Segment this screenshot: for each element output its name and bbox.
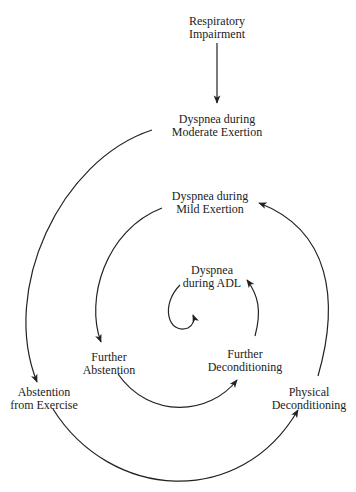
node-dyspnea-mild-exertion: Dyspnea during Mild Exertion (172, 190, 248, 216)
arrow-further-deconditioning-to-adl (247, 280, 258, 336)
node-text: Mild Exertion (172, 203, 248, 216)
node-abstention-from-exercise: Abstention from Exercise (10, 386, 78, 412)
arrow-further-abstention-to-further-deconditioning (118, 374, 237, 407)
arrow-adl-curl (168, 285, 193, 329)
node-dyspnea-adl: Dyspnea during ADL (183, 264, 241, 290)
node-further-abstention: Further Abstention (83, 351, 136, 377)
arrow-abstention-to-physical (53, 409, 298, 481)
node-respiratory-impairment: Respiratory Impairment (189, 15, 245, 41)
dyspnea-spiral-diagram: Respiratory Impairment Dyspnea during Mo… (0, 0, 356, 492)
node-text: from Exercise (10, 399, 78, 412)
node-dyspnea-moderate-exertion: Dyspnea during Moderate Exertion (172, 113, 262, 139)
node-text: Abstention (83, 364, 136, 377)
arrow-moderate-to-abstention (26, 130, 152, 382)
node-text: during ADL (183, 277, 241, 290)
node-text: Moderate Exertion (172, 126, 262, 139)
spiral-arrows (0, 0, 356, 492)
arrow-mild-to-further-abstention (96, 208, 162, 342)
node-physical-deconditioning: Physical Deconditioning (272, 386, 347, 412)
node-further-deconditioning: Further Deconditioning (208, 348, 283, 374)
node-text: Deconditioning (208, 361, 283, 374)
node-text: Deconditioning (272, 399, 347, 412)
node-text: Impairment (189, 28, 245, 41)
